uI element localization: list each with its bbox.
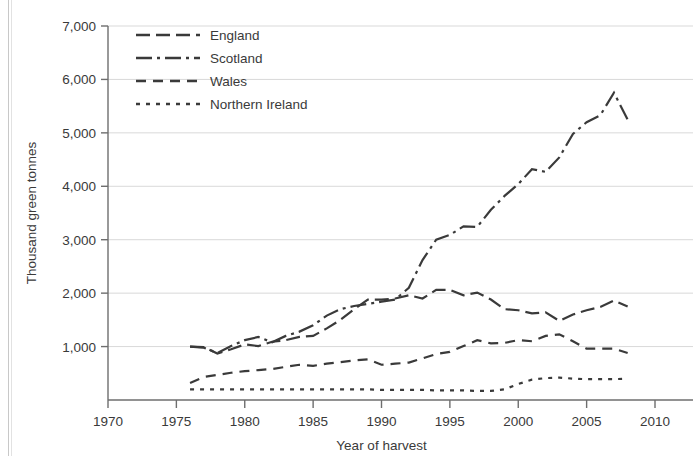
line-chart: 1,0002,0003,0004,0005,0006,0007,000 1970…: [0, 0, 695, 456]
x-axis-ticks: 197019751980198519901995200020052010: [93, 400, 670, 429]
x-tick-label: 1970: [93, 414, 123, 429]
legend-label-northern-ireland: Northern Ireland: [210, 97, 308, 112]
legend-label-england: England: [210, 28, 260, 43]
series-line-wales: [190, 334, 628, 383]
series-line-scotland: [190, 93, 628, 353]
x-tick-label: 2005: [572, 414, 602, 429]
x-axis-title: Year of harvest: [336, 438, 427, 453]
y-tick-label: 4,000: [62, 179, 96, 194]
y-tick-label: 2,000: [62, 286, 96, 301]
y-tick-label: 7,000: [62, 19, 96, 34]
y-tick-label: 6,000: [62, 72, 96, 87]
y-axis-ticks: 1,0002,0003,0004,0005,0006,0007,000: [62, 19, 108, 355]
y-tick-label: 3,000: [62, 233, 96, 248]
x-tick-label: 1980: [230, 414, 260, 429]
x-tick-label: 2010: [640, 414, 670, 429]
gridlines: [108, 26, 693, 347]
y-tick-label: 5,000: [62, 126, 96, 141]
x-tick-label: 2000: [503, 414, 533, 429]
x-tick-label: 1995: [435, 414, 465, 429]
x-tick-label: 1975: [161, 414, 191, 429]
legend-label-scotland: Scotland: [210, 51, 263, 66]
x-tick-label: 1990: [366, 414, 396, 429]
y-axis-title: Thousand green tonnes: [24, 141, 39, 284]
chart-figure: 1,0002,0003,0004,0005,0006,0007,000 1970…: [0, 0, 695, 456]
chart-legend: EnglandScotlandWalesNorthern Ireland: [136, 28, 308, 112]
y-tick-label: 1,000: [62, 340, 96, 355]
series-line-england: [190, 290, 628, 354]
legend-label-wales: Wales: [210, 74, 247, 89]
x-tick-label: 1985: [298, 414, 328, 429]
series-line-northern-ireland: [190, 378, 628, 391]
